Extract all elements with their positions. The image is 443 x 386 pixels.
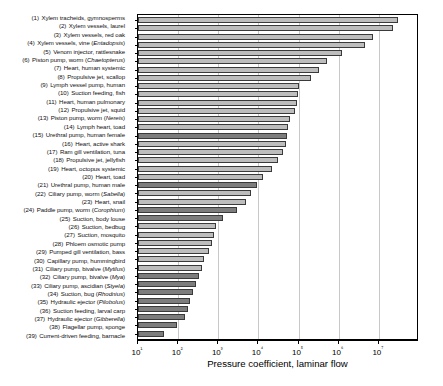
category-index: (11) [44, 99, 57, 105]
bar-row [138, 132, 417, 140]
bar [138, 174, 263, 180]
category-label: (14)Lymph heart, toad [0, 123, 128, 131]
bar-row [138, 288, 417, 296]
species-name: Nereis [106, 114, 123, 121]
category-label: (13)Piston pump, worm (Nereis) [0, 114, 128, 122]
category-label: (26)Suction, bedbug [0, 223, 128, 231]
category-name: Suction, mosquito [77, 232, 125, 238]
bar-row [138, 140, 417, 148]
bar [138, 149, 283, 155]
bar [138, 58, 327, 64]
bar-row [138, 82, 417, 90]
category-label: (10)Suction feeding, fish [0, 89, 128, 97]
category-name: Pumped gill ventilation, bass [49, 249, 125, 255]
bar [138, 182, 257, 188]
y-tick [135, 243, 138, 244]
x-tick-label: 10⁷ [372, 346, 383, 357]
category-label: (9)Lymph vessel pump, human [0, 81, 128, 89]
bar-row [138, 231, 417, 239]
bar-row [138, 247, 417, 255]
category-label: (18)Propulsive jet, jellyfish [0, 156, 128, 164]
bar-row [138, 239, 417, 247]
category-name: Suction feeding, fish [71, 90, 125, 96]
x-axis-title: Pressure coefficient, laminar flow [137, 358, 418, 369]
bar-row [138, 181, 417, 189]
y-tick [135, 193, 138, 194]
bar-row [138, 297, 417, 305]
bar-row [138, 255, 417, 263]
y-tick [135, 103, 138, 104]
category-name: Suction, body louse [73, 216, 125, 222]
bar [138, 314, 185, 320]
y-tick [135, 169, 138, 170]
bar-row [138, 66, 417, 74]
y-tick [135, 119, 138, 120]
category-index: (7) [48, 65, 61, 71]
bar [138, 67, 319, 73]
bar-row [138, 41, 417, 49]
category-label: (17)Ram gill ventilation, tuna [0, 148, 128, 156]
category-index: (32) [37, 274, 50, 280]
y-tick [135, 45, 138, 46]
bar-row [138, 206, 417, 214]
category-index: (24) [21, 207, 34, 213]
bar-row [138, 115, 417, 123]
category-name: Urethral pump, human female [46, 132, 125, 138]
bar-row [138, 16, 417, 24]
bar-row [138, 123, 417, 131]
category-label: (33)Ciliary pump, ascidian (Styela) [0, 282, 128, 290]
category-label: (37)Hydraulic ejector (Gibberella) [0, 315, 128, 323]
y-tick [135, 218, 138, 219]
bar-row [138, 330, 417, 338]
species-name: Mya [112, 273, 123, 280]
x-axis: 10¹10²10³10⁴10⁵10⁶10⁷ [137, 340, 418, 341]
bar-row [138, 264, 417, 272]
category-name: Xylem vessels, red oak [63, 32, 125, 38]
x-tick [217, 340, 218, 344]
category-name: Propulsive jet, jellyfish [66, 157, 125, 163]
category-index: (38) [47, 324, 60, 330]
y-tick [135, 185, 138, 186]
species-name: Sabella [103, 190, 123, 197]
y-tick [135, 177, 138, 178]
bar-row [138, 305, 417, 313]
category-name: Heart, toad [95, 174, 125, 180]
y-tick [135, 160, 138, 161]
y-tick [135, 86, 138, 87]
category-label: (34)Suction, bug (Rhodnius) [0, 290, 128, 298]
bar [138, 116, 290, 122]
y-tick [135, 144, 138, 145]
x-tick [177, 340, 178, 344]
bar-row [138, 321, 417, 329]
y-tick [135, 152, 138, 153]
bar [138, 42, 365, 48]
category-index: (30) [32, 258, 45, 264]
category-index: (3) [48, 32, 61, 38]
category-name: Heart, human systemic [64, 65, 125, 71]
bar [138, 141, 286, 147]
species-name: Mytilus [104, 265, 123, 272]
y-tick [135, 78, 138, 79]
x-tick [298, 340, 299, 344]
category-index: (29) [34, 249, 47, 255]
bar-row [138, 74, 417, 82]
bar [138, 157, 278, 163]
y-tick [135, 325, 138, 326]
category-index: (20) [80, 174, 93, 180]
y-tick [135, 53, 138, 54]
category-name: Hydraulic ejector (Gibberella) [48, 316, 125, 322]
y-tick [135, 309, 138, 310]
bar [138, 83, 299, 89]
category-index: (1) [26, 15, 39, 21]
category-index: (22) [33, 191, 46, 197]
category-label: (19)Heart, octopus systemic [0, 164, 128, 172]
y-tick [135, 226, 138, 227]
y-tick [135, 268, 138, 269]
category-name: Propulsive jet, scallop [67, 74, 125, 80]
bar [138, 50, 342, 56]
bar-row [138, 214, 417, 222]
category-name: Ciliary pump, bivalve (Mya) [53, 274, 125, 280]
category-index: (10) [56, 90, 69, 96]
bar [138, 248, 209, 254]
category-index: (39) [24, 333, 37, 339]
